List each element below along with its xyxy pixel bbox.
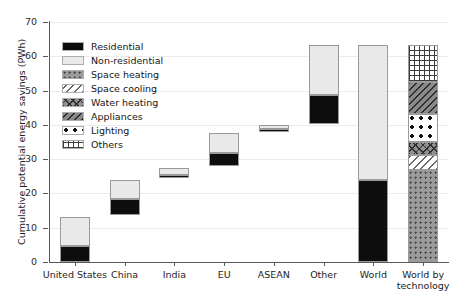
y-axis-tick — [43, 125, 48, 126]
bar-segment — [209, 153, 239, 166]
legend-item-non-residential: Non-residential — [62, 54, 163, 66]
y-axis-title-wrap: Cumulative potential energy savings (PWh… — [2, 0, 18, 301]
legend-label: Others — [91, 139, 123, 150]
bar-segment — [209, 133, 239, 153]
legend-item-others: Others — [62, 138, 163, 150]
bar-segment — [408, 82, 438, 114]
legend-swatch-icon — [62, 112, 84, 121]
y-axis-tick — [43, 91, 48, 92]
legend-item-water-heating: Water heating — [62, 96, 163, 108]
x-axis-tick-label-other: Other — [310, 269, 337, 280]
x-axis-tick — [224, 262, 225, 266]
legend-swatch-icon — [62, 98, 84, 107]
x-axis-line — [49, 262, 449, 263]
legend-swatch-icon — [62, 56, 84, 65]
bar-segment — [110, 180, 140, 199]
bar-segment — [60, 246, 90, 262]
legend-swatch-icon — [62, 140, 84, 149]
bar-segment — [159, 175, 189, 178]
legend-label: Water heating — [91, 97, 158, 108]
y-axis-tick — [43, 159, 48, 160]
bar-segment — [358, 45, 388, 180]
legend-swatch-icon — [62, 70, 84, 79]
y-axis-tick-label: 10 — [25, 222, 37, 233]
legend-label: Space heating — [91, 69, 159, 80]
y-axis-title: Cumulative potential energy savings (PWh… — [16, 39, 27, 245]
legend-swatch-icon — [62, 84, 84, 93]
legend-item-residential: Residential — [62, 40, 163, 52]
y-axis-tick — [43, 22, 48, 23]
y-axis-tick-label: 20 — [25, 187, 37, 198]
chart-container: Cumulative potential energy savings (PWh… — [0, 0, 457, 301]
x-axis-tick-label-asean: ASEAN — [258, 269, 290, 280]
bar-segment — [259, 129, 289, 131]
bar-segment — [408, 170, 438, 262]
bar-segment — [309, 95, 339, 124]
y-axis-tick-label: 40 — [25, 119, 37, 130]
bar-segment — [408, 155, 438, 170]
bar-segment — [110, 199, 140, 215]
bar-segment — [358, 180, 388, 262]
legend-label: Lighting — [91, 125, 129, 136]
x-axis-tick-label-india: India — [163, 269, 186, 280]
y-axis-tick-label: 50 — [25, 85, 37, 96]
legend-swatch-icon — [62, 42, 84, 51]
bar-segment — [259, 125, 289, 129]
x-axis-tick — [125, 262, 126, 266]
gridline — [50, 22, 448, 23]
legend-label: Residential — [91, 41, 143, 52]
bar-segment — [408, 45, 438, 83]
y-axis-tick-label: 70 — [25, 16, 37, 27]
bar-segment — [60, 217, 90, 246]
legend-item-appliances: Appliances — [62, 110, 163, 122]
y-axis-tick — [43, 56, 48, 57]
y-axis-tick-label: 30 — [25, 153, 37, 164]
x-axis-tick-label-eu: EU — [218, 269, 231, 280]
y-axis-tick — [43, 193, 48, 194]
x-axis-tick-label-world-by-technology: World by technology — [397, 269, 450, 291]
legend-swatch-icon — [62, 126, 84, 135]
legend-item-space-heating: Space heating — [62, 68, 163, 80]
legend-label: Non-residential — [91, 55, 163, 66]
x-axis-tick — [423, 262, 424, 266]
bar-segment — [408, 142, 438, 155]
chart-legend: ResidentialNon-residentialSpace heatingS… — [62, 40, 163, 150]
x-axis-tick — [274, 262, 275, 266]
x-axis-tick-label-china: China — [111, 269, 138, 280]
x-axis-tick-label-world: World — [360, 269, 387, 280]
x-axis-tick — [324, 262, 325, 266]
y-axis-tick — [43, 262, 48, 263]
y-axis-tick-label: 0 — [31, 256, 37, 267]
legend-item-space-cooling: Space cooling — [62, 82, 163, 94]
x-axis-tick — [75, 262, 76, 266]
bar-segment — [408, 114, 438, 142]
x-axis-tick — [373, 262, 374, 266]
y-axis-tick — [43, 228, 48, 229]
legend-item-lighting: Lighting — [62, 124, 163, 136]
legend-label: Appliances — [91, 111, 143, 122]
y-axis-tick-label: 60 — [25, 50, 37, 61]
bar-segment — [309, 45, 339, 94]
x-axis-tick-label-united-states: United States — [43, 269, 107, 280]
bar-segment — [159, 168, 189, 175]
x-axis-tick — [174, 262, 175, 266]
legend-label: Space cooling — [91, 83, 157, 94]
